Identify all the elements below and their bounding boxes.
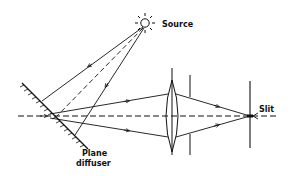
source-icon xyxy=(135,13,155,33)
diffuser-label-line1: Plane xyxy=(82,149,108,158)
diffuser-label-line2: diffuser xyxy=(76,159,111,168)
source-label: Source xyxy=(162,20,194,29)
slit xyxy=(247,81,258,148)
optical-diagram: Source Slit Plane diffuser xyxy=(0,0,291,176)
slit-label: Slit xyxy=(259,105,274,114)
lens xyxy=(166,68,178,155)
